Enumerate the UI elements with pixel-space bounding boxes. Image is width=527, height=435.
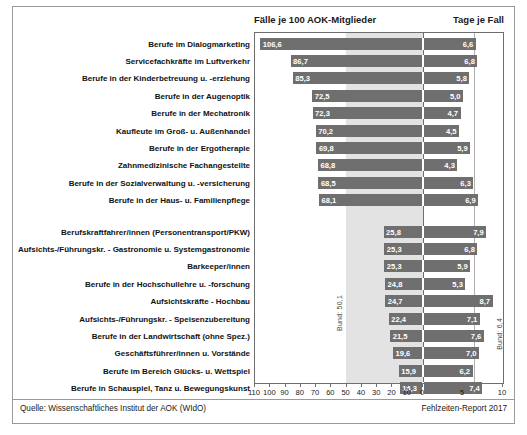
axis-tick: [361, 383, 362, 387]
bar-tage: 6,6: [423, 38, 476, 50]
bar-value-tage: 4,3: [444, 161, 455, 170]
axis-tick-label: 20: [387, 388, 395, 397]
bar-value-faelle: 69,8: [319, 143, 334, 152]
bar-value-faelle: 68,5: [321, 178, 336, 187]
bar-value-tage: 8,7: [480, 297, 491, 306]
bar-faelle: 25,8: [384, 226, 423, 238]
bar-tage: 8,7: [423, 295, 493, 307]
category-label: Berufe in der Ergotherapie: [149, 144, 250, 153]
chart-row: Berufe in der Landwirtschaft (ohne Spez.…: [255, 327, 503, 344]
bar-tage: 7,6: [423, 330, 484, 342]
bar-value-faelle: 25,3: [387, 244, 402, 253]
bar-tage: 6,3: [423, 177, 473, 189]
chart-row: Zahnmedizinische Fachangestellte68,84,3: [255, 157, 503, 174]
bar-tage: 5,8: [423, 72, 469, 84]
chart-row: Berufe im Dialogmarketing106,66,6: [255, 35, 503, 52]
category-label: Berufe in Schauspiel, Tanz u. Bewegungsk…: [71, 384, 250, 393]
bar-tage: 5,0: [423, 90, 463, 102]
bar-value-tage: 7,1: [467, 314, 478, 323]
bar-tage: 7,1: [423, 313, 480, 325]
chart-row: Barkeeper/innen25,35,9: [255, 258, 503, 275]
bar-value-faelle: 15,9: [401, 366, 416, 375]
category-label: Berufe im Dialogmarketing: [148, 39, 250, 48]
chart-row: Berufe in der Sozialverwaltung u. -versi…: [255, 174, 503, 191]
axis-tick-label: 60: [326, 388, 334, 397]
axis-tick-label: 10: [498, 388, 506, 397]
bar-value-faelle: 25,3: [387, 262, 402, 271]
right-reference-label: Bund: 6,4: [496, 318, 503, 350]
bar-value-tage: 5,9: [457, 143, 468, 152]
bar-tage: 7,9: [423, 226, 486, 238]
axis-tick: [269, 383, 270, 387]
bar-tage: 4,3: [423, 159, 457, 171]
bar-tage: 5,3: [423, 278, 465, 290]
bar-tage: 4,5: [423, 125, 459, 137]
bar-tage: 4,7: [423, 107, 461, 119]
chart-row: Berufe in der Kinderbetreuung u. -erzieh…: [255, 70, 503, 87]
axis-tick: [422, 383, 423, 387]
chart-row: Kaufleute im Groß- u. Außenhandel70,24,5: [255, 122, 503, 139]
bar-value-tage: 7,0: [466, 349, 477, 358]
category-label: Berufe in der Hochschullehre u. -forschu…: [85, 279, 250, 288]
chart-row: Berufe in der Hochschullehre u. -forschu…: [255, 275, 503, 292]
category-label: Berufe in der Kinderbetreuung u. -erzieh…: [82, 74, 250, 83]
axis-line: [254, 383, 504, 384]
bar-value-faelle: 68,1: [321, 196, 336, 205]
category-label: Servicefachkräfte im Luftverkehr: [126, 57, 251, 66]
category-label: Aufsichts-/Führungskr. - Speisenzubereit…: [79, 314, 250, 323]
bar-value-tage: 6,8: [464, 56, 475, 65]
bar-faelle: 21,5: [390, 330, 423, 342]
bar-faelle: 24,7: [385, 295, 423, 307]
axis-tick-label: 10: [402, 388, 410, 397]
axis-tick: [376, 383, 377, 387]
bar-tage: 5,9: [423, 142, 470, 154]
bar-value-tage: 7,9: [473, 227, 484, 236]
bar-value-faelle: 86,7: [293, 56, 308, 65]
bar-value-faelle: 21,5: [393, 331, 408, 340]
axis-tick: [391, 383, 392, 387]
axis-tick-label: 90: [280, 388, 288, 397]
axis-tick: [254, 383, 255, 387]
category-label: Zahnmedizinische Fachangestellte: [118, 161, 250, 170]
axis-tick-label: 100: [263, 388, 276, 397]
bar-faelle: 15,9: [399, 365, 423, 377]
bar-value-tage: 4,7: [448, 109, 459, 118]
bar-faelle: 68,1: [319, 194, 423, 206]
footer: Quelle: Wissenschaftliches Institut der …: [20, 404, 507, 418]
axis-tick: [300, 383, 301, 387]
bar-value-tage: 6,6: [463, 39, 474, 48]
category-label: Kaufleute im Groß- u. Außenhandel: [116, 126, 250, 135]
bar-value-tage: 5,3: [452, 279, 463, 288]
bar-tage: 6,8: [423, 55, 477, 67]
chart-row: Aufsichts-/Führungskr. - Gastronomie u. …: [255, 240, 503, 257]
bar-faelle: 72,3: [313, 107, 423, 119]
bar-faelle: 24,8: [385, 278, 423, 290]
bar-tage: 5,9: [423, 260, 470, 272]
bar-value-tage: 6,8: [464, 244, 475, 253]
bar-value-tage: 4,5: [446, 126, 457, 135]
report-note: Fehlzeiten-Report 2017: [421, 404, 507, 413]
bar-tage: 6,9: [423, 194, 478, 206]
plot-area: Berufe im Dialogmarketing106,66,6Service…: [254, 32, 504, 383]
bar-value-faelle: 24,8: [388, 279, 403, 288]
axis-tick-label: 50: [341, 388, 349, 397]
chart-row: Servicefachkräfte im Luftverkehr86,76,8: [255, 52, 503, 69]
bar-faelle: 85,3: [293, 72, 423, 84]
chart-row: Berufe im Bereich Glücks- u. Wettspiel15…: [255, 362, 503, 379]
axis-tick: [407, 383, 408, 387]
chart-row: Berufe in der Augenoptik72,55,0: [255, 87, 503, 104]
chart-row: Berufskraftfahrer/innen (Personentranspo…: [255, 223, 503, 240]
axis-tick: [502, 383, 503, 387]
bar-tage: 7,0: [423, 347, 479, 359]
axis-tick-label: 5: [460, 388, 464, 397]
bar-faelle: 68,8: [318, 159, 423, 171]
bar-value-faelle: 68,8: [320, 161, 335, 170]
right-panel-title: Tage je Fall: [453, 14, 504, 25]
axis-tick: [462, 383, 463, 387]
category-label: Berufe in der Mechatronik: [151, 109, 250, 118]
bar-value-faelle: 85,3: [295, 74, 310, 83]
bar-faelle: 69,8: [316, 142, 423, 154]
chart-row: Berufe in der Mechatronik72,34,7: [255, 105, 503, 122]
category-label: Berufe in der Landwirtschaft (ohne Spez.…: [92, 332, 250, 341]
source-note: Quelle: Wissenschaftliches Institut der …: [20, 404, 206, 413]
